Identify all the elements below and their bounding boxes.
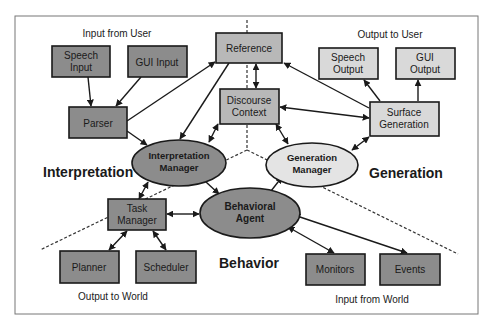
label-output-to-user: Output to User bbox=[357, 29, 423, 40]
node-discourse-context: Discourse Context bbox=[220, 89, 279, 124]
svg-text:Agent: Agent bbox=[236, 213, 265, 224]
node-monitors: Monitors bbox=[306, 254, 365, 285]
svg-text:Manager: Manager bbox=[117, 215, 157, 226]
svg-text:GUI Input: GUI Input bbox=[136, 57, 179, 68]
svg-text:Manager: Manager bbox=[292, 164, 331, 175]
svg-text:Output: Output bbox=[333, 64, 363, 75]
architecture-diagram: Input from User Output to User Output to… bbox=[0, 0, 492, 320]
svg-text:Interpretation: Interpretation bbox=[148, 150, 209, 161]
svg-text:Behavioral: Behavioral bbox=[224, 201, 275, 212]
label-input-from-user: Input from User bbox=[83, 28, 153, 39]
svg-text:Task: Task bbox=[127, 203, 149, 214]
svg-text:Speech: Speech bbox=[331, 52, 365, 63]
svg-text:Scheduler: Scheduler bbox=[143, 262, 189, 273]
node-speech-output: Speech Output bbox=[319, 48, 378, 79]
node-gui-output: GUI Output bbox=[396, 48, 455, 79]
node-task-manager: Task Manager bbox=[108, 199, 166, 230]
label-behavior: Behavior bbox=[219, 255, 279, 271]
svg-text:Manager: Manager bbox=[159, 162, 198, 173]
svg-text:Generation: Generation bbox=[287, 152, 337, 163]
node-planner: Planner bbox=[60, 251, 119, 283]
node-scheduler: Scheduler bbox=[136, 251, 196, 283]
label-input-from-world: Input from World bbox=[335, 294, 409, 305]
svg-text:Output: Output bbox=[410, 64, 440, 75]
svg-text:Planner: Planner bbox=[72, 262, 107, 273]
node-speech-input: Speech Input bbox=[52, 46, 110, 77]
node-reference: Reference bbox=[216, 33, 282, 63]
label-output-to-world: Output to World bbox=[78, 291, 148, 302]
label-interpretation: Interpretation bbox=[43, 164, 133, 180]
node-behavioral-agent: Behavioral Agent bbox=[200, 188, 300, 238]
svg-text:Events: Events bbox=[395, 264, 426, 275]
node-parser: Parser bbox=[69, 107, 127, 138]
label-generation: Generation bbox=[369, 165, 443, 181]
svg-text:Parser: Parser bbox=[83, 118, 113, 129]
node-generation-manager: Generation Manager bbox=[266, 143, 358, 187]
node-gui-input: GUI Input bbox=[128, 46, 187, 77]
svg-text:Reference: Reference bbox=[226, 43, 273, 54]
node-interpretation-manager: Interpretation Manager bbox=[132, 140, 226, 186]
svg-text:Speech: Speech bbox=[64, 50, 98, 61]
node-surface-generation: Surface Generation bbox=[370, 102, 439, 136]
svg-text:Generation: Generation bbox=[379, 119, 428, 130]
svg-text:Surface: Surface bbox=[387, 107, 422, 118]
svg-text:GUI: GUI bbox=[416, 52, 434, 63]
svg-text:Context: Context bbox=[232, 107, 267, 118]
svg-text:Monitors: Monitors bbox=[316, 264, 354, 275]
svg-text:Discourse: Discourse bbox=[227, 95, 272, 106]
svg-text:Input: Input bbox=[70, 62, 92, 73]
node-events: Events bbox=[380, 254, 440, 285]
